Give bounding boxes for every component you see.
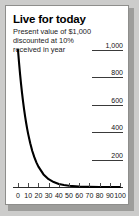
x-axis-tick-label: 60 [75,192,83,200]
y-axis-tick-label: 600 [92,97,123,106]
chart-card: Live for today Present value of $1,000 d… [5,5,129,205]
x-axis-tick-label: 0 [16,192,20,200]
y-axis-tick-label: 200 [92,152,123,161]
x-axis-tick-label: 10 [24,192,32,200]
page-title: Live for today [13,13,86,25]
x-axis-tick-label: 50 [65,192,73,200]
x-axis-tick-label: 30 [45,192,53,200]
x-axis-tick [79,183,80,187]
x-axis-tick [28,183,29,187]
x-axis-tick-label: 20 [34,192,42,200]
x-axis-line [13,187,123,188]
x-axis-tick [49,183,50,187]
y-axis-labels: 1,000800600400200 [92,46,123,191]
x-axis-tick-label: 90 [106,192,114,200]
x-axis-tick [69,183,70,187]
x-axis-tick [18,183,19,187]
x-axis-tick [110,183,111,187]
x-axis-tick-label: 40 [55,192,63,200]
y-axis-tick-label: 800 [92,69,123,78]
x-axis-tick [100,183,101,187]
x-axis-tick [59,183,60,187]
x-axis-tick [38,183,39,187]
x-axis-tick [89,183,90,187]
x-axis-tick-label: 70 [85,192,93,200]
chart-figure: Live for today Present value of $1,000 d… [0,0,139,216]
x-axis-tick-label: 80 [96,192,104,200]
x-axis-tick-label: 100 [114,192,126,200]
y-axis-tick-label: 1,000 [92,42,123,51]
x-axis-labels: 0102030405060708090100 [13,192,125,204]
x-axis-tick [120,183,121,187]
y-axis-tick-label: 400 [92,124,123,133]
subtitle-line-1: Present value of $1,000 [13,27,121,36]
